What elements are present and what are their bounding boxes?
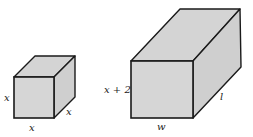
cube-height-label: x [4,92,10,103]
box-front-face [131,61,193,118]
box-width-label: w [157,121,166,132]
cube: x x x [4,56,75,133]
cube-depth-label: x [66,106,72,117]
solids-diagram: x x x x + 2 w l [0,0,253,137]
cube-front-face [14,77,54,118]
box: x + 2 w l [104,9,241,132]
box-length-label: l [220,91,223,102]
box-height-label: x + 2 [104,84,131,95]
cube-width-label: x [29,122,35,133]
